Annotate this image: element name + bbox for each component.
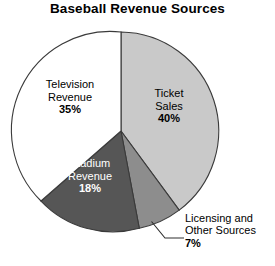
pie-chart-figure: Baseball Revenue Sources Ticket Sales 40… — [0, 0, 275, 266]
slice-value-television-revenue: 35% — [59, 103, 81, 115]
slice-value-ticket-sales: 40% — [158, 112, 180, 124]
slice-label-ticket-sales: Ticket Sales 40% — [138, 87, 200, 125]
slice-label-licensing-and-other-sources-line1: Licensing and — [185, 212, 253, 224]
slice-label-ticket-sales-line2: Sales — [155, 100, 183, 112]
slice-label-ticket-sales-line1: Ticket — [155, 87, 184, 99]
slice-label-licensing-and-other-sources: Licensing and Other Sources 7% — [185, 212, 275, 249]
slice-value-stadium-revenue: 18% — [79, 182, 101, 194]
slice-value-licensing-and-other-sources: 7% — [185, 237, 201, 249]
slice-label-stadium-revenue: Stadium Revenue 18% — [48, 157, 132, 195]
slice-label-television-revenue-line1: Television — [46, 78, 94, 90]
slice-label-television-revenue: Television Revenue 35% — [28, 78, 112, 116]
slice-label-licensing-and-other-sources-line2: Other Sources — [185, 224, 256, 236]
slice-label-television-revenue-line2: Revenue — [48, 91, 92, 103]
slice-label-stadium-revenue-line1: Stadium — [70, 157, 110, 169]
callout-leader-line — [152, 222, 185, 239]
slice-label-stadium-revenue-line2: Revenue — [68, 170, 112, 182]
